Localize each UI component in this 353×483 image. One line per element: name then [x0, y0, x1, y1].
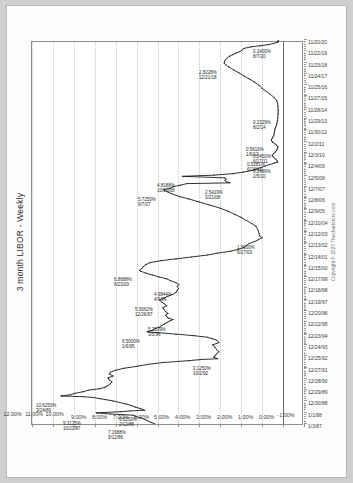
- x-axis-label: 12/2/11: [308, 140, 324, 146]
- x-axis-label: 12/5/08: [308, 174, 325, 180]
- data-point-annotation: 0.2329%8/2/14: [253, 120, 271, 130]
- x-axis-label: 12/30/88: [308, 400, 327, 406]
- x-axis-label: 11/25/16: [308, 84, 327, 90]
- y-axis-label: 8.00%: [91, 413, 106, 419]
- plot-area: [31, 41, 303, 425]
- y-axis-label: 1.00%: [238, 413, 253, 419]
- x-axis-label: 11/20/20: [308, 39, 327, 45]
- x-axis-label: 12/4/09: [308, 163, 325, 169]
- x-axis-label: 11/22/19: [308, 50, 327, 56]
- y-axis-label: 2.00%: [217, 413, 232, 419]
- x-axis-label: 11/30/12: [308, 129, 327, 135]
- data-point-annotation: 4.8188%10/10/08: [157, 184, 175, 194]
- data-point-annotation: 9.3125%10/23/87: [63, 422, 81, 432]
- x-axis-label: 12/13/02: [308, 242, 327, 248]
- y-axis-label: -1.00%: [277, 411, 294, 417]
- x-axis-label: 12/24/93: [308, 343, 327, 349]
- data-point-annotation: 5.9062%12/26/97: [134, 307, 152, 317]
- data-point-annotation: 2.8228%12/21/18: [199, 71, 217, 81]
- data-point-annotation: 10.6250%3/24/89: [35, 403, 55, 413]
- chart-sheet: 3 month LIBOR - Weekly Copyright © 2020 …: [6, 5, 347, 478]
- data-point-annotation: 7.1688%9/12/86: [108, 430, 126, 440]
- page-background: 3 month LIBOR - Weekly Copyright © 2020 …: [0, 0, 353, 483]
- data-point-annotation: 3.1250%10/2/92: [192, 366, 210, 376]
- x-axis-label: 12/25/92: [308, 355, 327, 361]
- data-point-annotation: 0.5616%1/6/12: [246, 147, 264, 157]
- rotated-chart-stage: 3 month LIBOR - Weekly Copyright © 2020 …: [9, 7, 345, 477]
- x-axis-label: 12/18/98: [308, 287, 327, 293]
- x-axis-label: 11/29/13: [308, 118, 327, 124]
- data-point-annotation: 5.2539%3/5/96: [148, 327, 166, 337]
- x-axis-label: 12/8/06: [308, 197, 325, 203]
- data-point-annotation: 5.7250%9/7/07: [138, 197, 156, 207]
- y-axis-label: 3.00%: [196, 413, 211, 419]
- x-axis-label: 12/28/90: [308, 377, 327, 383]
- data-point-annotation: 4.9844%4/9/99: [153, 292, 171, 302]
- y-axis-label: 12.00%: [3, 410, 21, 416]
- data-point-annotation: 6.8688%6/23/00: [114, 278, 132, 288]
- x-axis-label: 12/20/96: [308, 310, 327, 316]
- x-axis-label: 11/23/18: [308, 61, 327, 67]
- data-point-annotation: 0.5281%6/18/10: [247, 163, 265, 173]
- y-axis-label: 5.00%: [154, 413, 169, 419]
- x-axis-label: 12/12/03: [308, 231, 327, 237]
- x-axis-label: 1/1/88: [308, 411, 322, 417]
- data-point-annotation: 6.5000%1/6/95: [122, 339, 140, 349]
- data-point-annotation: 6.6250%2/12/88: [119, 418, 137, 428]
- data-series-line: [32, 40, 304, 424]
- x-axis-label: 1/3/87: [308, 423, 322, 429]
- x-axis-label: 12/23/94: [308, 332, 327, 338]
- x-axis-label: 12/17/99: [308, 276, 327, 282]
- data-point-annotation: 2.5419%3/21/08: [204, 190, 222, 200]
- data-point-annotation: 1.0000%6/27/03: [237, 245, 255, 255]
- page-title: 3 month LIBOR - Weekly: [15, 7, 25, 477]
- x-axis-label: 12/3/10: [308, 151, 325, 157]
- y-axis-label: 4.00%: [175, 413, 190, 419]
- x-axis-label: 12/22/95: [308, 321, 327, 327]
- x-axis-label: 12/9/05: [308, 208, 325, 214]
- copyright-notice: Copyright © 2020 Thechartstore.com: [331, 7, 336, 477]
- x-axis-label: 12/10/04: [308, 219, 327, 225]
- x-axis-label: 12/19/97: [308, 298, 327, 304]
- x-axis-label: 12/15/00: [308, 264, 327, 270]
- y-axis-label: 9.00%: [70, 413, 85, 419]
- data-point-annotation: 0.2400%8/7/20: [253, 49, 271, 59]
- x-axis-label: 12/14/01: [308, 253, 327, 259]
- y-axis-label: 0.00%: [259, 413, 274, 419]
- x-axis-label: 11/24/17: [308, 72, 327, 78]
- x-axis-label: 11/28/14: [308, 106, 327, 112]
- x-axis-label: 12/29/89: [308, 389, 327, 395]
- x-axis-label: 11/27/15: [308, 95, 327, 101]
- x-axis-label: 12/27/91: [308, 366, 327, 372]
- x-axis-label: 12/7/07: [308, 185, 325, 191]
